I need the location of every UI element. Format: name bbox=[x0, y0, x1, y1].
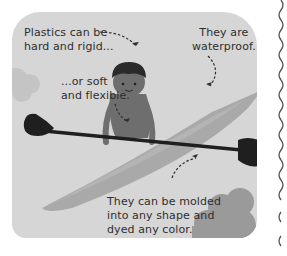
cloud-left-icon bbox=[12, 68, 40, 102]
arrow-waterproof bbox=[208, 56, 216, 86]
wavy-border-icon bbox=[276, 0, 287, 256]
caption-hard-rigid: Plastics can be hard and rigid... bbox=[24, 26, 114, 54]
illustration-panel: Plastics can be hard and rigid... ...or … bbox=[12, 12, 257, 238]
caption-soft-flexible: ...or soft and flexible. bbox=[61, 75, 130, 103]
arrow-molded bbox=[172, 158, 196, 178]
caption-waterproof: They are waterproof. bbox=[192, 26, 256, 54]
caption-molded: They can be molded into any shape and dy… bbox=[107, 195, 221, 237]
